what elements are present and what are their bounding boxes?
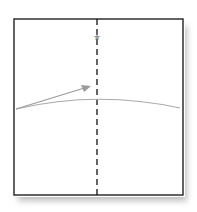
origami-diagram: ★ <box>0 0 197 212</box>
star-marker-icon: ★ <box>93 32 101 42</box>
paper-square <box>14 19 183 195</box>
